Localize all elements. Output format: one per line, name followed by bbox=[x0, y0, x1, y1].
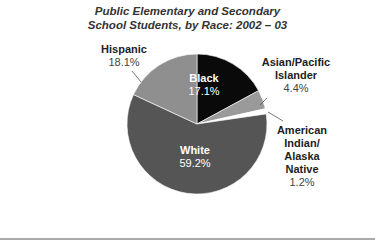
leader-aian bbox=[268, 112, 283, 121]
slice-label-hispanic: Hispanic18.1% bbox=[96, 43, 152, 69]
pie-chart bbox=[0, 0, 375, 241]
slice-label-asian: Asian/PacificIslander4.4% bbox=[256, 56, 336, 95]
leader-hispanic bbox=[132, 71, 141, 82]
slice-label-american-indian: AmericanIndian/AlaskaNative1.2% bbox=[272, 124, 332, 189]
slice-label-black: Black17.1% bbox=[182, 72, 226, 98]
slice-label-white: White59.2% bbox=[170, 144, 220, 170]
bottom-rule bbox=[0, 238, 375, 240]
